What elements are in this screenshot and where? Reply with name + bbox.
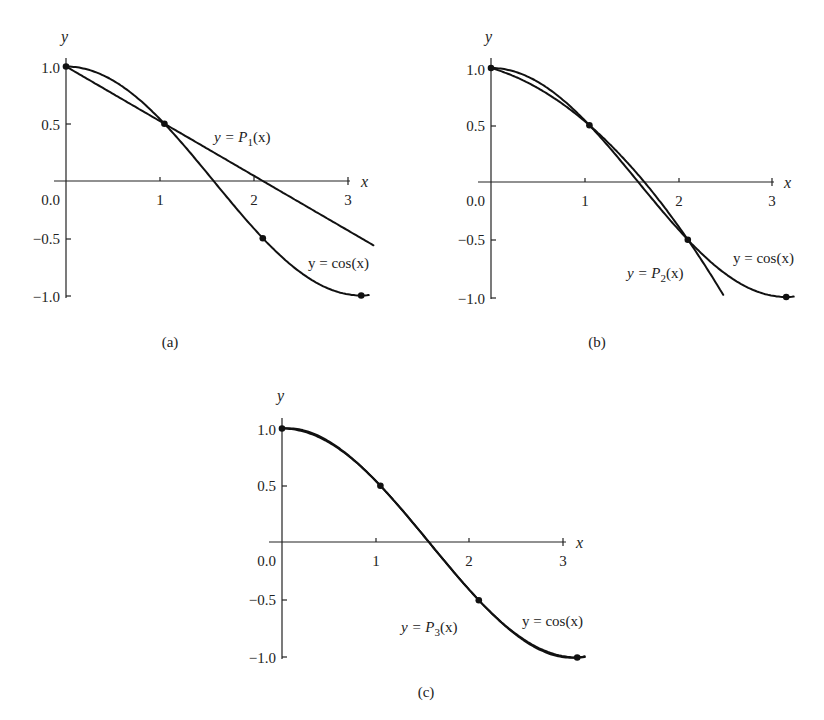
y-tick-label: 1.0 <box>41 60 60 76</box>
node-point <box>783 294 790 301</box>
cos-label: y = cos(x) <box>308 255 369 272</box>
caption-b: (b) <box>588 334 606 351</box>
x-tick-label: 3 <box>768 193 776 209</box>
cos-label: y = cos(x) <box>733 250 794 267</box>
panel-c: y x 1.0 0.5 0.0 −0.5 −1.0 1 2 3 y = P3(x… <box>249 387 585 701</box>
y-tick-label: 0.5 <box>41 117 60 133</box>
node-point <box>476 597 483 604</box>
y-tick-label: −0.5 <box>458 232 485 248</box>
p1-line <box>66 67 373 246</box>
node-point <box>161 121 168 128</box>
y-axis-label: y <box>275 387 285 405</box>
node-point <box>685 237 692 244</box>
node-point <box>279 425 286 432</box>
node-point <box>488 65 495 72</box>
x-axis-label: x <box>575 534 583 551</box>
x-tick-label: 3 <box>344 192 352 208</box>
panel-b: y x 1.0 0.5 0.0 −0.5 −1.0 1 2 3 y = P2(x… <box>458 28 794 351</box>
x-tick-label: 1 <box>372 553 380 569</box>
y-tick-label: 1.0 <box>257 422 276 438</box>
y-axis-label: y <box>483 28 493 46</box>
y-tick-label: −0.5 <box>33 231 60 247</box>
y-tick-label: 0.5 <box>257 478 276 494</box>
x-tick-label: 3 <box>559 553 567 569</box>
node-point <box>574 654 581 661</box>
x-tick-label: 1 <box>581 193 589 209</box>
y-tick-label: 0.0 <box>257 553 276 569</box>
y-tick-label: 1.0 <box>466 62 485 78</box>
node-point <box>358 292 365 299</box>
x-axis-label: x <box>360 173 368 190</box>
y-tick-label: 0.0 <box>41 192 60 208</box>
p3-label: y = P3(x) <box>399 619 457 638</box>
interpolation-figure: y x 1.0 0.5 0.0 −0.5 −1.0 1 2 3 y = P1(x… <box>0 0 824 720</box>
y-tick-label: −1.0 <box>458 291 485 307</box>
y-axis-label: y <box>59 28 69 46</box>
panel-a: y x 1.0 0.5 0.0 −0.5 −1.0 1 2 3 y = P1(x… <box>33 28 374 351</box>
y-tick-label: 0.5 <box>466 118 485 134</box>
x-tick-label: 1 <box>156 192 164 208</box>
x-axis-label: x <box>783 174 791 191</box>
y-tick-label: −1.0 <box>249 650 276 666</box>
p1-label: y = P1(x) <box>212 129 270 148</box>
caption-c: (c) <box>418 684 435 701</box>
y-tick-label: 0.0 <box>466 193 485 209</box>
node-point <box>377 483 384 490</box>
caption-a: (a) <box>162 334 179 351</box>
p2-label: y = P2(x) <box>625 265 683 284</box>
x-tick-label: 2 <box>675 193 683 209</box>
node-point <box>586 122 593 129</box>
node-point <box>260 235 267 242</box>
y-tick-label: −0.5 <box>249 592 276 608</box>
x-tick-label: 2 <box>465 553 473 569</box>
y-tick-label: −1.0 <box>33 289 60 305</box>
cos-label: y = cos(x) <box>522 613 583 630</box>
x-tick-label: 2 <box>250 192 258 208</box>
node-point <box>63 63 70 70</box>
